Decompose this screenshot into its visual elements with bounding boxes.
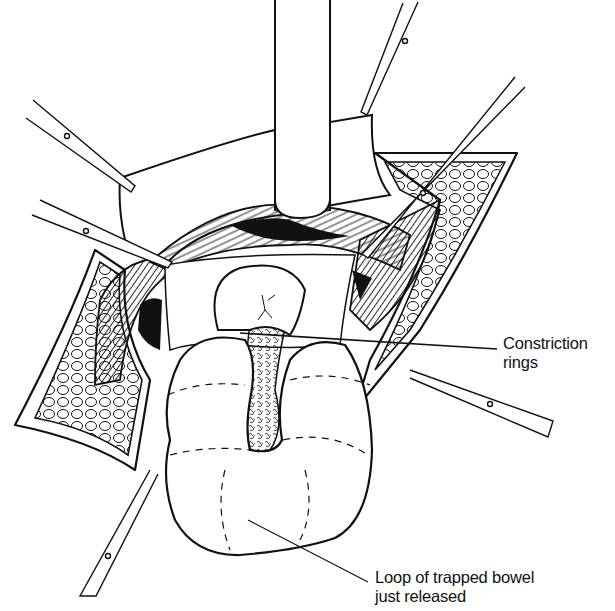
label-line: Constriction	[503, 334, 588, 353]
label-line: rings	[503, 353, 588, 372]
label-line: Loop of trapped bowel	[375, 568, 534, 587]
bowel-upper-segment	[214, 266, 305, 335]
trapped-bowel-label: Loop of trapped bowel just released	[375, 568, 534, 606]
constriction-rings-label: Constriction rings	[503, 334, 588, 372]
retractor-blade	[275, 0, 330, 218]
label-line: just released	[375, 587, 534, 606]
surgical-illustration	[0, 0, 615, 611]
